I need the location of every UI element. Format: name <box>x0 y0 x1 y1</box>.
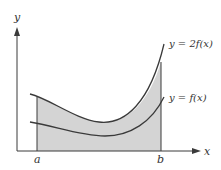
area-diagram: y x a b y = 2f(x) y = f(x) <box>0 0 221 170</box>
x-axis-label: x <box>204 145 211 158</box>
y-axis-arrow-icon <box>14 27 20 36</box>
x-axis-arrow-icon <box>192 148 201 154</box>
y-axis-label: y <box>13 11 21 24</box>
curve-label-2fx: y = 2f(x) <box>168 38 213 49</box>
b-label: b <box>157 153 164 166</box>
shaded-region <box>37 62 161 151</box>
a-label: a <box>34 153 41 166</box>
curve-label-fx: y = f(x) <box>168 92 207 103</box>
